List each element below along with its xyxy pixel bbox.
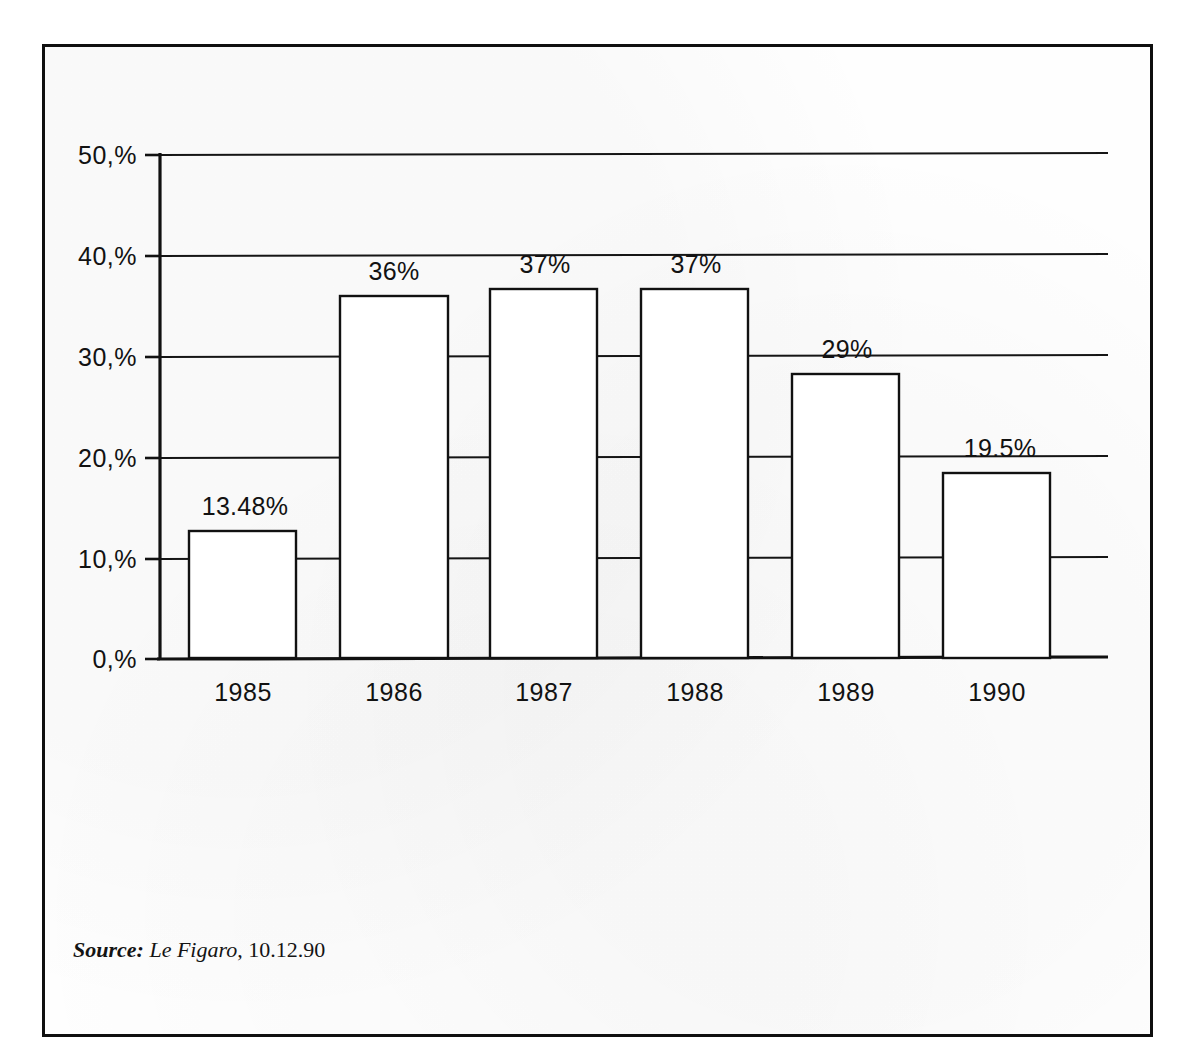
chart-svg: 50,% 40,% 30,% 20,% 10,% 0,% 13.48% 36% (45, 47, 1156, 1040)
xtick-label-1986: 1986 (365, 678, 423, 706)
value-label-1989: 29% (822, 335, 873, 363)
ytick-label-10: 10,% (78, 545, 137, 573)
figure-frame: 50,% 40,% 30,% 20,% 10,% 0,% 13.48% 36% (42, 44, 1153, 1037)
bar-1986[interactable] (340, 296, 448, 658)
bar-chart: 50,% 40,% 30,% 20,% 10,% 0,% 13.48% 36% (45, 47, 1156, 1040)
source-date-label: , 10.12.90 (237, 937, 325, 962)
xtick-label-1990: 1990 (968, 678, 1026, 706)
ytick-label-0: 0,% (92, 645, 137, 673)
gridline-30 (160, 355, 1108, 357)
bar-value-labels: 13.48% 36% 37% 37% 29% 19.5% (202, 250, 1036, 520)
y-axis-ticks (145, 155, 160, 659)
value-label-1990: 19.5% (964, 434, 1036, 462)
gridline-50 (160, 153, 1108, 155)
bar-1989[interactable] (792, 374, 899, 658)
y-axis-tick-labels: 50,% 40,% 30,% 20,% 10,% 0,% (78, 141, 137, 673)
xtick-label-1987: 1987 (515, 678, 573, 706)
ytick-label-30: 30,% (78, 343, 137, 371)
source-prefix-label: Source: (73, 937, 144, 962)
value-label-1987: 37% (520, 250, 571, 278)
ytick-label-50: 50,% (78, 141, 137, 169)
bar-1985[interactable] (189, 531, 296, 658)
source-publication-label: Le Figaro (149, 937, 237, 962)
bars (189, 289, 1050, 658)
ytick-label-40: 40,% (78, 242, 137, 270)
value-label-1985: 13.48% (202, 492, 289, 520)
ytick-label-20: 20,% (78, 444, 137, 472)
source-caption: Source: Le Figaro, 10.12.90 (73, 937, 325, 963)
bar-1990[interactable] (943, 473, 1050, 658)
value-label-1986: 36% (369, 257, 420, 285)
xtick-label-1989: 1989 (817, 678, 875, 706)
xtick-label-1985: 1985 (214, 678, 272, 706)
value-label-1988: 37% (671, 250, 722, 278)
xtick-label-1988: 1988 (666, 678, 724, 706)
gridline-40 (160, 254, 1108, 256)
bar-1987[interactable] (490, 289, 597, 658)
x-axis-tick-labels: 1985 1986 1987 1988 1989 1990 (214, 678, 1026, 706)
bar-1988[interactable] (641, 289, 748, 658)
